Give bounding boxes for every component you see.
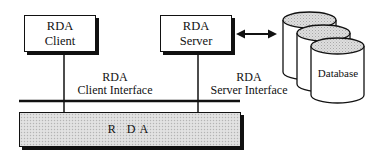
client-interface-subtitle: Client Interface — [70, 84, 160, 97]
rda-architecture-diagram: RDA Client RDA Server Database RDA Clien… — [0, 0, 372, 162]
rda-server-title: RDA — [183, 19, 209, 34]
rda-client-subtitle: Client — [45, 34, 76, 49]
server-interface-label: RDA Server Interface — [203, 71, 295, 97]
database-label: Database — [316, 67, 360, 80]
client-interface-label: RDA Client Interface — [70, 71, 160, 97]
rda-client-title: RDA — [47, 19, 73, 34]
rda-layer-label: R DA — [108, 122, 152, 137]
double-arrow-icon — [236, 30, 277, 39]
rda-server-box: RDA Server — [160, 15, 232, 52]
server-interface-subtitle: Server Interface — [203, 84, 295, 97]
rda-server-subtitle: Server — [180, 34, 213, 49]
rda-layer-bar: R DA — [19, 112, 241, 147]
rda-client-box: RDA Client — [24, 15, 96, 52]
database-icon — [283, 12, 364, 103]
